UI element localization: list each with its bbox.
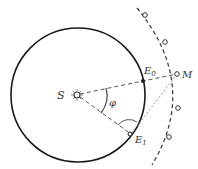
label-e0: E0 bbox=[143, 65, 156, 78]
orbit-diagram: S M E0 E1 φ bbox=[0, 0, 198, 169]
label-sun: S bbox=[57, 89, 65, 102]
angle-e1-arc bbox=[118, 120, 137, 125]
earth1-mars-line bbox=[131, 74, 177, 134]
sun-mars-line bbox=[80, 74, 177, 94]
sun-earth1-line bbox=[80, 97, 131, 134]
earth-position-e0 bbox=[141, 79, 145, 83]
sun-icon bbox=[71, 89, 83, 101]
mars-position bbox=[175, 72, 180, 77]
angle-phi-arc bbox=[101, 88, 107, 113]
mars-position-markers bbox=[143, 13, 181, 140]
label-mars: M bbox=[181, 69, 193, 80]
label-e1: E1 bbox=[134, 134, 147, 147]
earth-position-e1 bbox=[128, 132, 132, 136]
label-angle-phi: φ bbox=[109, 97, 116, 108]
